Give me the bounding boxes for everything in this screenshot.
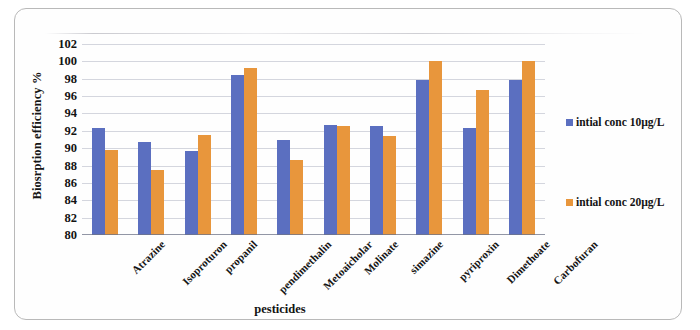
bar	[92, 128, 105, 235]
bar-chart: Biosrption efficiency % 1021009896949290…	[0, 0, 700, 330]
bar	[185, 151, 198, 235]
legend-item: intial conc 10µg/L	[566, 116, 664, 128]
y-tick-label: 80	[65, 228, 78, 243]
x-axis-tick-labels: AtrazineIsoproturonpropanilpendimethalin…	[82, 238, 545, 300]
y-tick-label: 82	[65, 210, 78, 225]
bar	[151, 170, 164, 235]
y-axis-tick-labels: 10210098969492908886848280	[47, 44, 77, 235]
y-tick-label: 98	[65, 71, 78, 86]
legend-label: intial conc 20µg/L	[576, 196, 664, 208]
y-axis-title: Biosrption efficiency %	[30, 36, 45, 236]
bar	[370, 126, 383, 235]
legend-swatch	[566, 199, 573, 206]
x-tick-label: Isoproturon	[180, 238, 229, 287]
bar	[231, 75, 244, 235]
bar-group	[406, 44, 452, 235]
bar-groups	[82, 44, 545, 235]
x-tick-label: simazine	[407, 238, 445, 276]
y-tick-label: 100	[58, 54, 77, 69]
x-tick-label: Carbofuran	[551, 238, 600, 287]
x-tick-label: Atrazine	[129, 238, 167, 276]
bar	[277, 140, 290, 236]
legend-label: intial conc 10µg/L	[576, 116, 664, 128]
y-tick-label: 94	[65, 106, 78, 121]
chart-legend: intial conc 10µg/Lintial conc 20µg/L	[566, 44, 691, 235]
y-tick-label: 84	[65, 193, 78, 208]
x-tick-label: propanil	[222, 238, 259, 275]
bar-group	[221, 44, 267, 235]
y-tick-label: 88	[65, 158, 78, 173]
bar-group	[175, 44, 221, 235]
y-tick-label: 86	[65, 175, 78, 190]
bar	[290, 160, 303, 235]
bar-group	[452, 44, 498, 235]
y-tick-label: 96	[65, 89, 78, 104]
x-axis-line	[82, 234, 545, 235]
bar	[416, 80, 429, 235]
y-tick-label: 92	[65, 123, 78, 138]
bar	[429, 61, 442, 235]
x-tick-label: Dimethoate	[504, 238, 552, 286]
bar-group	[313, 44, 359, 235]
bar	[198, 135, 211, 235]
bar-group	[360, 44, 406, 235]
bar	[244, 68, 257, 235]
bar-group	[82, 44, 128, 235]
bar	[105, 150, 118, 235]
bar	[476, 90, 489, 235]
bar	[138, 142, 151, 235]
bar	[522, 61, 535, 235]
plot-area	[82, 44, 545, 235]
x-tick-label: pyriproxin	[456, 238, 501, 283]
x-axis-title: pesticides	[0, 302, 560, 317]
bar-group	[499, 44, 545, 235]
bar	[509, 80, 522, 235]
legend-item: intial conc 20µg/L	[566, 196, 664, 208]
bar	[324, 125, 337, 235]
bar	[337, 126, 350, 235]
bar	[463, 128, 476, 235]
y-tick-label: 102	[58, 37, 77, 52]
y-tick-label: 90	[65, 141, 78, 156]
bar-group	[128, 44, 174, 235]
bar	[383, 136, 396, 235]
bar-group	[267, 44, 313, 235]
legend-swatch	[566, 119, 573, 126]
